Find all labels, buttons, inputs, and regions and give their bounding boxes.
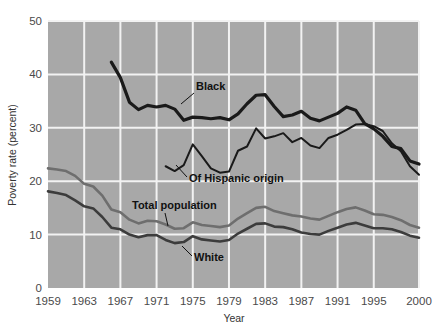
- plot-panel-background: [48, 21, 419, 288]
- series-label-of-hispanic-origin: Of Hispanic origin: [189, 172, 284, 184]
- x-tick-label: 1991: [325, 295, 351, 307]
- series-label-black: Black: [196, 80, 226, 92]
- x-tick-label: 1963: [71, 295, 97, 307]
- y-axis-title: Poverty rate (percent): [6, 104, 18, 206]
- poverty-rate-line-chart: 01020304050 1959196319671971197519791983…: [0, 0, 444, 332]
- y-tick-label: 10: [29, 229, 42, 241]
- y-tick-label: 30: [29, 122, 42, 134]
- x-tick-label: 1979: [216, 295, 242, 307]
- y-tick-label: 0: [36, 282, 42, 294]
- x-axis-title: Year: [223, 312, 245, 324]
- x-tick-label: 1959: [35, 295, 61, 307]
- x-axis-tick-labels: 1959196319671971197519791983198719911995…: [35, 295, 432, 307]
- x-tick-label: 1987: [289, 295, 315, 307]
- series-label-white: White: [194, 251, 224, 263]
- chart-svg: 01020304050 1959196319671971197519791983…: [0, 0, 444, 332]
- y-tick-label: 20: [29, 175, 42, 187]
- x-tick-label: 1983: [252, 295, 278, 307]
- x-tick-label: 2000: [406, 295, 432, 307]
- x-tick-label: 1975: [180, 295, 206, 307]
- x-tick-label: 1995: [361, 295, 387, 307]
- x-tick-label: 1971: [144, 295, 170, 307]
- y-tick-label: 40: [29, 68, 42, 80]
- y-tick-label: 50: [29, 15, 42, 27]
- x-tick-label: 1967: [108, 295, 134, 307]
- series-label-total-population: Total population: [132, 199, 217, 211]
